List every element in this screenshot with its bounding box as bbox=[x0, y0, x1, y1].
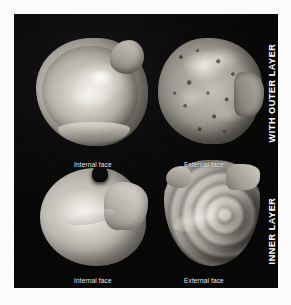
specimen-bottom-left bbox=[26, 156, 156, 286]
shell-internal-face-inner-layer bbox=[40, 168, 146, 266]
caption-bottom-right: External face bbox=[184, 277, 224, 284]
pallial-scar-highlight bbox=[72, 86, 112, 108]
shell-hinge-facet bbox=[234, 72, 264, 116]
shell-external-face-inner-layer bbox=[164, 160, 260, 266]
shell-umbo bbox=[166, 166, 192, 188]
shell-external-face-outer-layer bbox=[158, 38, 262, 144]
caption-top-left: Internal face bbox=[74, 161, 112, 168]
shell-lip bbox=[58, 122, 130, 144]
shell-beak-notch bbox=[92, 166, 108, 182]
group-label-inner-layer: INNER LAYER bbox=[267, 176, 277, 286]
group-label-with-outer-layer: WITH OUTER LAYER bbox=[267, 33, 277, 153]
photo-plate: Internal face External face Internal fac… bbox=[14, 14, 278, 288]
muscle-scar-highlight bbox=[88, 70, 114, 85]
caption-top-right: External face bbox=[184, 161, 224, 168]
shell-umbo bbox=[110, 40, 144, 74]
shell-internal-face-outer-layer bbox=[36, 38, 148, 146]
caption-bottom-left: Internal face bbox=[74, 277, 112, 284]
shell-posterior-wing bbox=[104, 182, 148, 230]
figure-root: Internal face External face Internal fac… bbox=[0, 0, 291, 305]
shell-hinge-shoulder bbox=[226, 164, 260, 190]
specimen-top-left bbox=[20, 24, 156, 174]
